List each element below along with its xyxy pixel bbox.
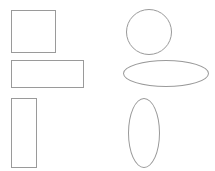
wide-rectangle-shape: [11, 60, 84, 88]
wide-ellipse-shape: [123, 60, 209, 87]
tall-ellipse-shape: [128, 98, 160, 168]
square-shape: [11, 10, 56, 53]
shapes-canvas: [0, 0, 215, 171]
tall-rectangle-shape: [11, 98, 37, 168]
circle-shape: [126, 9, 172, 55]
